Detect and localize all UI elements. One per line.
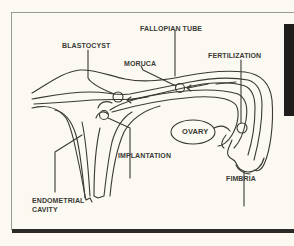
diagram-page: FALLOPIAN TUBE BLASTOCYST MORUCA FERTILI… bbox=[0, 0, 294, 246]
label-implantation: IMPLANTATION bbox=[118, 152, 171, 160]
uterus-right-outer bbox=[110, 106, 160, 196]
label-fimbria: FIMBRIA bbox=[226, 175, 256, 183]
label-moruca: MORUCA bbox=[124, 60, 156, 68]
label-blastocyst: BLASTOCYST bbox=[62, 42, 110, 50]
label-fertilization: FERTILIZATION bbox=[208, 52, 261, 60]
ovary-ligament bbox=[214, 126, 230, 131]
uterus-left-wall bbox=[32, 106, 92, 202]
uterus-left-inner bbox=[55, 110, 85, 198]
fimbria-fingers bbox=[222, 135, 250, 174]
label-fallopian-tube: FALLOPIAN TUBE bbox=[140, 25, 202, 33]
fimbria bbox=[227, 140, 264, 172]
label-ovary: OVARY bbox=[182, 128, 208, 136]
leader-moruca bbox=[141, 66, 176, 86]
fertilization-cell bbox=[237, 123, 247, 133]
leader-blastocyst bbox=[88, 50, 114, 94]
blastocyst-cell bbox=[113, 92, 123, 102]
label-cavity: CAVITY bbox=[32, 206, 58, 214]
label-endometrial: ENDOMETRIAL bbox=[32, 197, 84, 205]
